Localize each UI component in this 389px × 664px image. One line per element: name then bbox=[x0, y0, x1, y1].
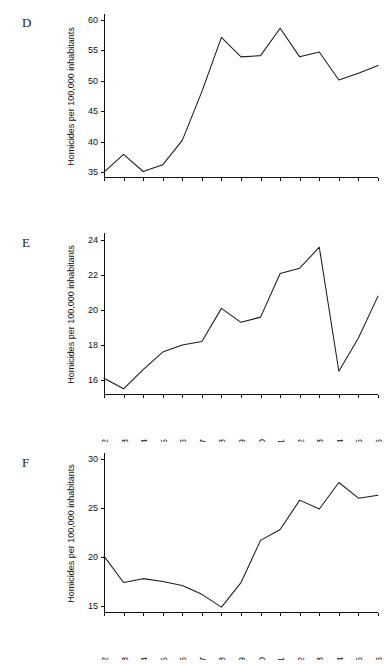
panel-f-plot: 1520253019921993199419951996199719981999… bbox=[0, 442, 389, 660]
panel-e: E 16182022241992199319941995199619971998… bbox=[0, 222, 389, 442]
panel-e-plot: 1618202224199219931994199519961997199819… bbox=[0, 222, 389, 442]
y-tick-label: 55 bbox=[88, 45, 98, 55]
y-tick-label: 18 bbox=[88, 340, 98, 350]
y-tick-label: 20 bbox=[88, 305, 98, 315]
y-tick-label: 15 bbox=[88, 601, 98, 611]
panel-d: D 35404550556019921993199419951996199719… bbox=[0, 0, 389, 222]
y-axis-title: Homicides per 100,000 inhabitants bbox=[66, 464, 76, 603]
y-tick-label: 20 bbox=[88, 552, 98, 562]
series-line bbox=[104, 28, 378, 172]
y-tick-label: 50 bbox=[88, 76, 98, 86]
y-tick-label: 35 bbox=[88, 167, 98, 177]
y-tick-label: 25 bbox=[88, 503, 98, 513]
y-tick-label: 60 bbox=[88, 15, 98, 25]
series-line bbox=[104, 247, 378, 389]
series-line bbox=[104, 482, 378, 607]
y-axis-title: Homicides per 100,000 inhabitants bbox=[66, 245, 76, 384]
y-tick-label: 30 bbox=[88, 454, 98, 464]
y-tick-label: 22 bbox=[88, 270, 98, 280]
y-tick-label: 24 bbox=[88, 235, 98, 245]
figure-caption-strip bbox=[0, 656, 389, 664]
panel-d-plot: 3540455055601992199319941995199619971998… bbox=[0, 0, 389, 222]
y-tick-label: 16 bbox=[88, 375, 98, 385]
homicide-rate-figure: D 35404550556019921993199419951996199719… bbox=[0, 0, 389, 664]
y-tick-label: 45 bbox=[88, 106, 98, 116]
y-axis-title: Homicides per 100,000 inhabitants bbox=[66, 27, 76, 166]
y-tick-label: 40 bbox=[88, 137, 98, 147]
panel-f: F 15202530199219931994199519961997199819… bbox=[0, 442, 389, 660]
